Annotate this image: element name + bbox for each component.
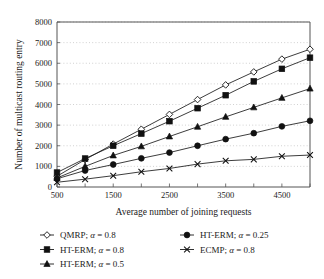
legend-item: HT-ERM; α = 0.5 xyxy=(40,259,124,269)
marker-filled-square xyxy=(251,79,257,85)
legend-label: QMRP; α = 0.8 xyxy=(60,230,116,240)
y-axis: 010002000300040005000600070008000 xyxy=(35,17,60,192)
x-tick-label: 2500 xyxy=(161,190,178,200)
y-tick-label: 8000 xyxy=(35,17,52,27)
legend-item: ECMP; α = 0.8 xyxy=(180,245,255,255)
legend-label: HT-ERM; α = 0.25 xyxy=(200,230,269,240)
y-tick-label: 2000 xyxy=(35,141,52,151)
chart-legend: QMRP; α = 0.8HT-ERM; α = 0.8HT-ERM; α = … xyxy=(40,230,269,269)
marker-filled-circle xyxy=(82,168,88,174)
x-axis-title: Average number of joining requests xyxy=(116,207,252,217)
marker-filled-circle xyxy=(223,136,229,142)
line-chart: 0100020003000400050006000700080005001500… xyxy=(0,0,324,279)
y-tick-label: 3000 xyxy=(35,120,52,130)
marker-filled-square xyxy=(307,55,313,61)
marker-filled-square xyxy=(223,92,229,98)
series-0 xyxy=(54,46,314,180)
series-line xyxy=(57,58,310,173)
legend-item: QMRP; α = 0.8 xyxy=(40,230,116,240)
y-tick-label: 5000 xyxy=(35,79,52,89)
y-axis-title: Number of multicast routing entry xyxy=(14,39,24,170)
marker-open-diamond xyxy=(250,69,257,76)
legend-label: ECMP; α = 0.8 xyxy=(200,245,255,255)
marker-filled-circle xyxy=(167,150,173,156)
marker-filled-square xyxy=(44,247,50,253)
marker-filled-triangle xyxy=(307,85,313,91)
y-tick-label: 4000 xyxy=(35,100,52,110)
marker-filled-circle xyxy=(184,232,190,238)
grid-lines xyxy=(57,22,310,166)
legend-item: HT-ERM; α = 0.25 xyxy=(180,230,269,240)
legend-item: HT-ERM; α = 0.8 xyxy=(40,245,124,255)
legend-label: HT-ERM; α = 0.8 xyxy=(60,245,124,255)
marker-open-diamond xyxy=(44,232,51,239)
marker-filled-triangle xyxy=(44,261,50,267)
series-line xyxy=(57,121,310,179)
marker-filled-circle xyxy=(110,162,116,168)
marker-filled-square xyxy=(110,143,116,149)
marker-filled-circle xyxy=(307,118,313,124)
x-axis: 5001500250035004500 xyxy=(51,184,310,201)
marker-open-diamond xyxy=(194,96,201,103)
marker-open-diamond xyxy=(222,82,229,89)
series-line xyxy=(57,89,310,178)
marker-filled-circle xyxy=(138,155,144,161)
marker-filled-square xyxy=(167,118,173,124)
x-tick-label: 500 xyxy=(51,190,64,200)
marker-filled-circle xyxy=(195,143,201,149)
marker-filled-square xyxy=(139,131,145,137)
x-tick-label: 3500 xyxy=(217,190,234,200)
marker-open-diamond xyxy=(279,56,286,63)
y-tick-label: 1000 xyxy=(35,161,52,171)
marker-filled-square xyxy=(195,105,201,111)
chart-figure: 0100020003000400050006000700080005001500… xyxy=(0,0,324,279)
marker-filled-square xyxy=(279,66,285,72)
x-tick-label: 1500 xyxy=(105,190,122,200)
legend-label: HT-ERM; α = 0.5 xyxy=(60,259,124,269)
y-tick-label: 6000 xyxy=(35,58,52,68)
marker-open-diamond xyxy=(307,46,314,53)
marker-filled-square xyxy=(82,156,88,162)
y-tick-label: 7000 xyxy=(35,38,52,48)
marker-filled-circle xyxy=(251,130,257,136)
marker-filled-circle xyxy=(279,123,285,129)
series-3 xyxy=(54,118,313,182)
x-tick-label: 4500 xyxy=(273,190,290,200)
marker-open-diamond xyxy=(166,111,173,118)
